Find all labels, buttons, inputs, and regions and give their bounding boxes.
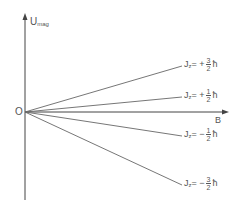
fraction: 12: [206, 127, 212, 142]
fraction: 32: [206, 57, 212, 72]
x-axis-label: B: [215, 116, 221, 125]
y-axis-label-sub: mag: [37, 21, 49, 27]
y-axis-label: Umag: [30, 17, 49, 27]
jz-plus-3-2-line: [25, 66, 182, 112]
numerator: 1: [206, 88, 212, 96]
jz-minus-3-2-label: Jz= −32ħ: [184, 176, 217, 191]
denominator: 2: [206, 135, 212, 142]
numerator: 1: [206, 127, 212, 135]
jz-sign: = −: [192, 178, 205, 188]
x-axis-arrow-icon: [222, 110, 229, 115]
denominator: 2: [206, 184, 212, 191]
jz-sign: = +: [192, 59, 205, 69]
jz-minus-3-2-line: [25, 112, 182, 185]
jz-plus-1-2-label: Jz= +12ħ: [184, 88, 217, 103]
denominator: 2: [206, 65, 212, 72]
hbar-unit: ħ: [212, 59, 217, 69]
origin-label: O: [15, 107, 23, 117]
fraction: 32: [206, 176, 212, 191]
jz-sign: = −: [192, 129, 205, 139]
jz-sign: = +: [192, 90, 205, 100]
hbar-unit: ħ: [212, 178, 217, 188]
fraction: 12: [206, 88, 212, 103]
hbar-unit: ħ: [212, 90, 217, 100]
hbar-unit: ħ: [212, 129, 217, 139]
denominator: 2: [206, 96, 212, 103]
numerator: 3: [206, 57, 212, 65]
y-axis-arrow-icon: [23, 13, 28, 20]
energy-lines: [25, 66, 182, 185]
jz-plus-3-2-label: Jz= +32ħ: [184, 57, 217, 72]
jz-minus-1-2-line: [25, 112, 182, 136]
numerator: 3: [206, 176, 212, 184]
jz-minus-1-2-label: Jz= −12ħ: [184, 127, 217, 142]
jz-plus-1-2-line: [25, 97, 182, 112]
